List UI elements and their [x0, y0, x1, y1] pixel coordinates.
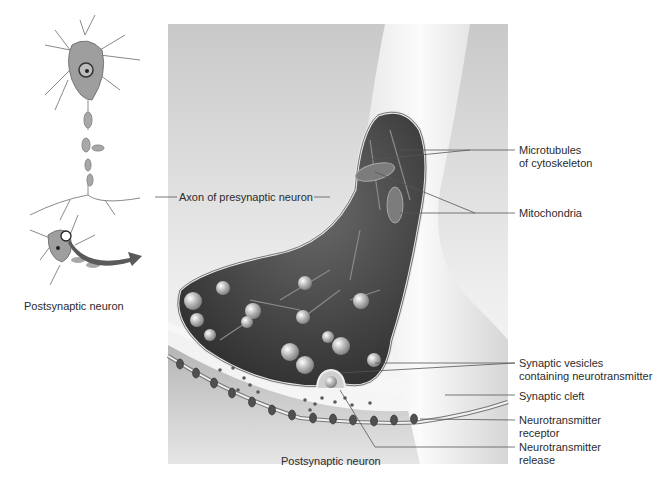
zoom-circle: [61, 231, 71, 241]
mitochondrion: [387, 187, 403, 223]
label-line: containing neurotransmitter: [519, 370, 652, 383]
label-receptor: Neurotransmitter receptor: [519, 414, 601, 440]
label-line: Synaptic vesicles: [519, 357, 652, 370]
label-line: Microtubules: [519, 144, 592, 157]
label-microtubules: Microtubules of cytoskeleton: [519, 144, 592, 170]
label-release: Neurotransmitter release: [519, 441, 601, 467]
label-synaptic-cleft: Synaptic cleft: [519, 390, 584, 403]
label-line: release: [519, 454, 601, 467]
label-postsynaptic-inset: Postsynaptic neuron: [24, 300, 124, 313]
label-mitochondria: Mitochondria: [519, 207, 582, 220]
label-postsynaptic-bottom: Postsynaptic neuron: [281, 455, 381, 468]
label-line: Neurotransmitter: [519, 414, 601, 427]
label-axon-presynaptic: Axon of presynaptic neuron: [179, 191, 313, 204]
label-line: Neurotransmitter: [519, 441, 601, 454]
label-line: receptor: [519, 427, 601, 440]
label-synaptic-vesicles: Synaptic vesicles containing neurotransm…: [519, 357, 652, 383]
label-line: of cytoskeleton: [519, 157, 592, 170]
myelin-segments: [82, 112, 104, 186]
